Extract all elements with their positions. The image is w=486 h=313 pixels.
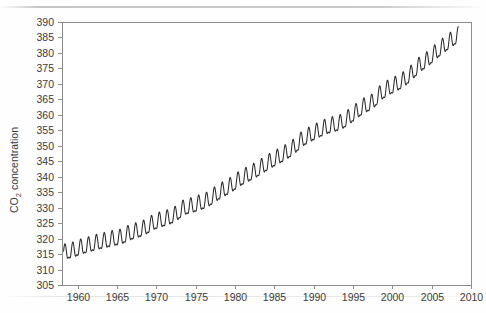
svg-text:CO2 concentration: CO2 concentration — [8, 127, 23, 213]
x-tick-label: 1975 — [185, 291, 209, 303]
x-tick-label: 1965 — [106, 291, 130, 303]
y-axis-title-rest: concentration — [8, 127, 20, 193]
y-tick-label: 315 — [36, 248, 54, 260]
y-tick-label: 375 — [36, 62, 54, 74]
y-tick-label: 345 — [36, 155, 54, 167]
y-tick-label: 330 — [36, 202, 54, 214]
y-tick-label: 365 — [36, 93, 54, 105]
x-tick-label: 2005 — [421, 291, 445, 303]
y-tick-label: 325 — [36, 217, 54, 229]
y-tick-label: 355 — [36, 124, 54, 136]
y-tick-label: 310 — [36, 264, 54, 276]
x-axis-tick-labels: 1960196519701975198019851990199520002005… — [67, 291, 484, 303]
y-tick-label: 320 — [36, 233, 54, 245]
y-tick-label: 340 — [36, 171, 54, 183]
plot-background — [62, 22, 471, 285]
y-tick-label: 385 — [36, 31, 54, 43]
y-axis-title: CO2 concentration — [8, 127, 23, 213]
x-tick-label: 2010 — [460, 291, 484, 303]
x-tick-label: 1980 — [224, 291, 248, 303]
x-tick-label: 1970 — [145, 291, 169, 303]
y-tick-label: 380 — [36, 47, 54, 59]
x-tick-label: 1985 — [263, 291, 287, 303]
y-tick-label: 360 — [36, 109, 54, 121]
x-tick-label: 1960 — [67, 291, 91, 303]
co2-concentration-line-chart: 3053103153203253303353403453503553603653… — [0, 0, 486, 313]
x-tick-label: 2000 — [381, 291, 405, 303]
y-axis-tick-marks — [58, 23, 62, 286]
y-tick-label: 335 — [36, 186, 54, 198]
x-tick-label: 1990 — [303, 291, 327, 303]
y-tick-label: 305 — [36, 279, 54, 291]
y-axis-title-base: CO — [8, 197, 20, 213]
y-axis-tick-labels: 3053103153203253303353403453503553603653… — [36, 16, 54, 291]
y-tick-label: 390 — [36, 16, 54, 28]
y-tick-label: 370 — [36, 78, 54, 90]
x-tick-label: 1995 — [342, 291, 366, 303]
y-tick-label: 350 — [36, 140, 54, 152]
chart-page: 3053103153203253303353403453503553603653… — [0, 0, 486, 313]
